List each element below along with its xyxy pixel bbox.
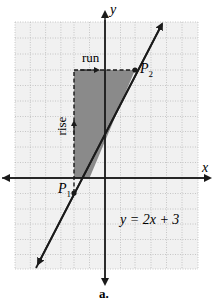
grid-background [15,22,198,269]
coordinate-plane [0,0,212,306]
y-axis-label: y [110,2,116,18]
point-p1 [71,190,76,195]
x-axis-label: x [202,160,208,176]
p1-label: P1 [58,181,71,199]
point-p2 [132,67,137,72]
p2-label: P2 [140,61,153,79]
equation-label: y = 2x + 3 [120,212,179,228]
rise-label: rise [54,117,70,136]
caption: a. [99,286,109,302]
run-label: run [82,50,99,66]
